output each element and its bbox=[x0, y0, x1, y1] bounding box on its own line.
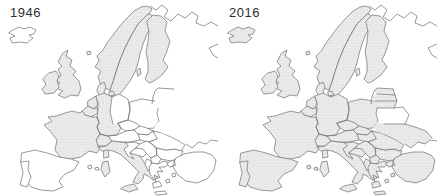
region-ireland bbox=[42, 71, 59, 94]
panel-2016: 2016 bbox=[219, 0, 437, 196]
region-belarus bbox=[158, 107, 190, 124]
region-lithuania bbox=[153, 101, 178, 108]
region-belarus bbox=[377, 107, 409, 124]
year-label-2016: 2016 bbox=[229, 6, 260, 19]
region-finland bbox=[145, 15, 170, 83]
region-iceland bbox=[9, 27, 36, 43]
region-united-kingdom bbox=[273, 50, 310, 98]
map-2016-europe bbox=[219, 0, 437, 196]
europe-map-comparison-figure: 1946 2016 bbox=[0, 0, 437, 196]
region-lithuania bbox=[372, 101, 397, 108]
year-label-1946: 1946 bbox=[10, 6, 41, 19]
region-finland bbox=[364, 15, 389, 83]
map-1946-europe bbox=[0, 0, 218, 196]
region-ireland bbox=[261, 71, 278, 94]
region-latvia bbox=[153, 94, 178, 101]
region-united-kingdom bbox=[54, 50, 91, 98]
panel-1946: 1946 bbox=[0, 0, 218, 196]
region-iceland bbox=[228, 27, 255, 43]
